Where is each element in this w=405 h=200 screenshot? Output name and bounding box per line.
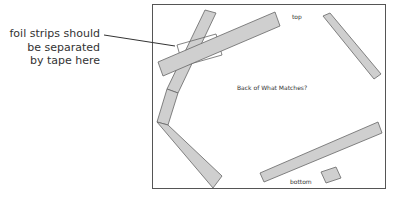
top-label: top [292,13,302,21]
bottom-label: bottom [290,178,312,185]
center-label: Back of What Matches? [237,84,307,91]
matchbook-diagram: top Back of What Matches? bottom [0,0,405,200]
matchbook-frame [153,5,386,189]
